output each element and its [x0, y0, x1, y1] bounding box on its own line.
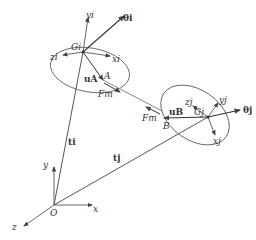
zi-label: zi	[49, 52, 58, 62]
position-vector-tj	[54, 117, 208, 205]
kinematic-diagram: x y z O ti tj yi xi zi θi Gi uA A Fm Fm	[0, 0, 256, 240]
theta-i-label: θi	[123, 13, 133, 23]
x-axis-label: x	[93, 204, 98, 214]
yi-label: yi	[85, 10, 94, 20]
ub-label: uB	[169, 107, 184, 117]
tj-label: tj	[113, 153, 120, 163]
ua-label: uA	[84, 74, 99, 84]
body-i-ellipse	[47, 41, 133, 98]
ti-label: ti	[68, 137, 76, 147]
xj-label: xj	[213, 136, 221, 146]
theta-j-label: θj	[243, 105, 252, 115]
position-vector-ti	[54, 52, 83, 205]
yj-label: yj	[218, 95, 227, 105]
y-axis-label: y	[42, 160, 49, 170]
body-j-frame: yj zj xj θj Gj uB B	[162, 95, 252, 146]
point-a-label: A	[103, 71, 111, 81]
xi-label: xi	[112, 54, 120, 64]
body-i-frame: yi xi zi θi Gi uA A	[49, 10, 133, 84]
zj-label: zj	[184, 97, 193, 107]
point-b-label: B	[162, 121, 170, 131]
z-axis-label: z	[11, 222, 17, 232]
force-link: Fm Fm	[97, 80, 162, 123]
fm-label-a: Fm	[97, 89, 113, 99]
fm-label-b: Fm	[141, 113, 157, 123]
global-frame: x y z O	[11, 160, 98, 232]
gj-label: Gj	[194, 107, 204, 117]
origin-label: O	[50, 208, 58, 218]
gi-label: Gi	[71, 42, 81, 52]
